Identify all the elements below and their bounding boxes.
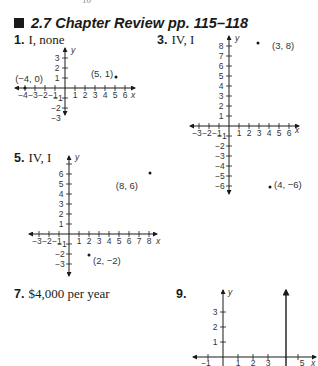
- tick-label: 3: [257, 128, 262, 138]
- tick-label: 2: [87, 236, 92, 246]
- tick-label: 3: [219, 91, 224, 101]
- x-axis-label: x: [130, 90, 136, 100]
- tick-label: 8: [147, 236, 152, 246]
- tick-label: 7: [219, 51, 224, 61]
- tick-label: 6: [59, 169, 64, 179]
- x-axis-label: x: [310, 358, 316, 366]
- tick-label: −3: [55, 259, 65, 269]
- tick-label: 3: [213, 307, 218, 317]
- tick-label: 6: [287, 128, 292, 138]
- graph-5-labels: −3 −2 −1 1 2 3 4 5 6 7 8 6 5 4 3 2 1 −1 …: [32, 152, 161, 269]
- tick-label: −3: [51, 113, 61, 123]
- tick-label: 4: [107, 236, 112, 246]
- tick-label: 4: [103, 90, 108, 100]
- tick-label: 1: [77, 236, 82, 246]
- plotted-point: [23, 86, 26, 89]
- tick-label: −6: [215, 181, 225, 191]
- tick-label: 3: [266, 358, 271, 366]
- tick-label: −2: [215, 141, 225, 151]
- tick-label: −1: [201, 358, 211, 366]
- tick-label: 6: [123, 90, 128, 100]
- y-axis-label: y: [74, 152, 80, 162]
- tick-label: 5: [277, 128, 282, 138]
- point-label: (4, −6): [274, 179, 302, 190]
- tick-label: 1: [73, 90, 78, 100]
- tick-label: −4: [215, 161, 225, 171]
- y-axis-label: y: [70, 45, 76, 55]
- plotted-point: [257, 42, 260, 45]
- tick-label: 2: [59, 209, 64, 219]
- tick-label: −1: [57, 239, 67, 249]
- tick-label: −2: [55, 249, 65, 259]
- point-label: (−4, 0): [15, 73, 43, 84]
- tick-label: 1: [219, 111, 224, 121]
- tick-label: −3: [192, 128, 202, 138]
- tick-label: 7: [137, 236, 142, 246]
- graph-9-labels: −1 1 2 3 5 3 2 1 x y: [201, 287, 316, 366]
- tick-label: 5: [113, 90, 118, 100]
- tick-label: 5: [117, 236, 122, 246]
- tick-label: 5: [300, 358, 305, 366]
- point-label: (2, −2): [93, 255, 121, 266]
- tick-label: −3: [215, 151, 225, 161]
- y-axis-label: y: [234, 33, 240, 43]
- tick-label: −2: [51, 103, 61, 113]
- tick-label: 3: [55, 53, 60, 63]
- tick-label: −3: [32, 236, 42, 246]
- tick-label: 6: [127, 236, 132, 246]
- tick-label: 1: [59, 219, 64, 229]
- tick-label: 2: [55, 63, 60, 73]
- tick-label: −3: [28, 90, 38, 100]
- tick-label: 3: [97, 236, 102, 246]
- tick-label: 5: [59, 179, 64, 189]
- tick-label: 8: [219, 41, 224, 51]
- point-label: (8, 6): [116, 180, 138, 191]
- x-axis-label: x: [294, 125, 300, 135]
- tick-label: −2: [38, 90, 48, 100]
- tick-label: −5: [215, 171, 225, 181]
- graphs-layer: −4 −3 −2 −1 1 2 3 4 5 6 3 2 1 −1 −2 −3 x…: [0, 0, 318, 366]
- graph-problem-9: [193, 290, 316, 366]
- tick-label: 2: [247, 128, 252, 138]
- graph-1-labels: −4 −3 −2 −1 1 2 3 4 5 6 3 2 1 −1 −2 −3 x…: [15, 45, 136, 123]
- tick-label: 4: [219, 81, 224, 91]
- tick-label: 6: [219, 61, 224, 71]
- tick-label: −2: [202, 128, 212, 138]
- tick-label: 1: [236, 358, 241, 366]
- tick-label: 3: [93, 90, 98, 100]
- tick-label: 4: [59, 189, 64, 199]
- plotted-point: [88, 254, 91, 257]
- tick-label: 2: [213, 322, 218, 332]
- plotted-point: [149, 172, 152, 175]
- point-label: (5, 1): [91, 68, 113, 79]
- y-axis-label: y: [227, 287, 233, 297]
- tick-label: 2: [219, 101, 224, 111]
- x-axis-label: x: [155, 236, 161, 246]
- tick-label: 5: [219, 71, 224, 81]
- tick-label: 1: [213, 337, 218, 347]
- tick-label: −1: [53, 93, 63, 103]
- plotted-point: [115, 76, 118, 79]
- tick-label: −1: [217, 131, 227, 141]
- tick-label: 4: [267, 128, 272, 138]
- tick-label: −2: [42, 236, 52, 246]
- tick-label: 1: [237, 128, 242, 138]
- plotted-point: [269, 186, 272, 189]
- tick-label: 2: [83, 90, 88, 100]
- tick-label: −4: [18, 90, 28, 100]
- tick-label: 3: [59, 199, 64, 209]
- tick-label: 1: [55, 73, 60, 83]
- point-label: (3, 8): [272, 40, 294, 51]
- graph-3-labels: −3 −2 −1 1 2 3 4 5 6 8 7 6 5 4 3 2 1 −1 …: [192, 33, 302, 191]
- graph-problem-3: [190, 36, 299, 194]
- tick-label: 2: [251, 358, 256, 366]
